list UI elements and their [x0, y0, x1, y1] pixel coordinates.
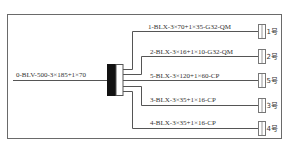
terminal-box-icon: [259, 50, 266, 64]
distribution-diagram: 0-BLV-500-3×185+1×70 1-BLX-3×70+1×35-G32…: [0, 0, 286, 144]
terminal-box-icon: [259, 74, 266, 88]
input-cable-label: 0-BLV-500-3×185+1×70: [16, 71, 87, 79]
branch-2-terminal-label: 2号: [267, 53, 278, 61]
branch-5-terminal-label: 5号: [267, 77, 278, 85]
branch-5: 5-BLX-3×120+1×60-CP 5号: [123, 72, 278, 88]
branch-4-cable-label: 4-BLX-3×35+1×16-CP: [150, 119, 216, 127]
branch-3-cable-label: 3-BLX-3×35+1×16-CP: [150, 96, 216, 104]
busbar-block: [107, 64, 123, 96]
branch-1: 1-BLX-3×70+1×35-G32-QM 1号: [123, 23, 278, 70]
branch-2: 2-BLX-3×16+1×10-G32-QM 2号: [123, 48, 278, 75]
terminal-box-icon: [259, 122, 266, 136]
branch-3-terminal-label: 3号: [267, 102, 278, 110]
input-feeder: 0-BLV-500-3×185+1×70: [13, 71, 107, 81]
branch-1-terminal-label: 1号: [267, 28, 278, 36]
branch-4-terminal-label: 4号: [267, 125, 278, 133]
terminal-box-icon: [259, 99, 266, 113]
branch-3: 3-BLX-3×35+1×16-CP 3号: [123, 87, 278, 113]
branch-1-cable-label: 1-BLX-3×70+1×35-G32-QM: [148, 23, 232, 31]
branch-5-cable-label: 5-BLX-3×120+1×60-CP: [150, 72, 220, 80]
branch-2-cable-label: 2-BLX-3×16+1×10-G32-QM: [150, 48, 234, 56]
terminal-box-icon: [259, 25, 266, 39]
